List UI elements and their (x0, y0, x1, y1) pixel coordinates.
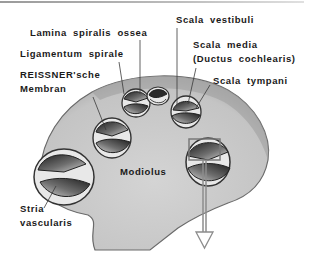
label-scala-tympani: Scala tympani (213, 75, 288, 87)
cochlear-turn-upper-left (122, 89, 150, 117)
label-ligamentum-spirale: Ligamentum spirale (20, 48, 124, 60)
label-modiolus: Modiolus (120, 166, 167, 178)
label-stria-line1: Stria (20, 203, 44, 215)
label-scala-vestibuli: Scala vestibuli (176, 14, 254, 26)
label-reissner-line1: REISSNER'sche (20, 69, 100, 81)
cochlear-turn-basal-left (34, 149, 94, 205)
cochlear-turn-apex (147, 87, 169, 105)
cochlear-turn-middle-left (93, 118, 131, 158)
label-reissner-line2: Membran (20, 83, 66, 95)
label-lamina-spiralis-ossea: Lamina spiralis ossea (30, 27, 147, 39)
label-scala-media-line1: Scala media (193, 39, 258, 51)
label-stria-line2: vascularis (20, 217, 72, 229)
cochlear-turn-basal-right (186, 138, 230, 186)
label-scala-media-line2: (Ductus cochlearis) (193, 53, 296, 65)
cochlear-turn-upper-right (171, 96, 201, 128)
